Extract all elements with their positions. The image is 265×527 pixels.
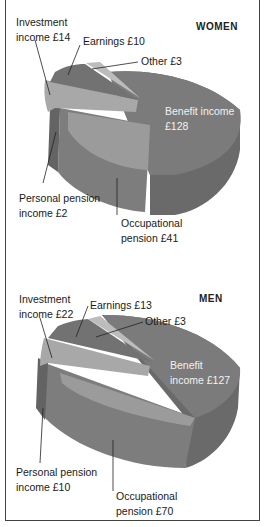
women-label-earnings: Earnings £10 xyxy=(83,34,145,49)
men-label-other: Other £3 xyxy=(145,314,186,329)
men-label-occupational: Occupational pension £70 xyxy=(116,489,177,519)
men-label-investment: Investment income £22 xyxy=(19,292,73,322)
women-label-other: Other £3 xyxy=(141,54,182,69)
women-label-personal: Personal pension income £2 xyxy=(19,191,100,221)
men-title: MEN xyxy=(199,293,223,304)
women-title: WOMEN xyxy=(196,21,238,32)
women-label-occupational: Occupational pension £41 xyxy=(121,216,182,246)
men-pie-panel: Investment income £22 Earnings £13 Other… xyxy=(0,258,265,518)
women-label-benefit: Benefit income £128 xyxy=(165,104,234,134)
women-pie-panel: Investment income £14 Earnings £10 Other… xyxy=(0,0,265,260)
men-label-earnings: Earnings £13 xyxy=(90,298,152,313)
men-label-personal: Personal pension income £10 xyxy=(16,465,97,495)
women-label-investment: Investment income £14 xyxy=(16,15,70,45)
men-label-benefit: Benefit income £127 xyxy=(170,358,230,388)
